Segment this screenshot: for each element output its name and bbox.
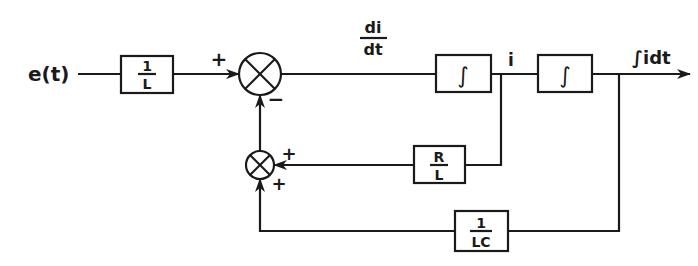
gain-block-1-over-L: 1 L bbox=[121, 56, 173, 93]
integral-icon: ∫ bbox=[457, 63, 468, 88]
main-sum-minus-sign: − bbox=[268, 87, 285, 111]
gain-R-over-L-denominator: L bbox=[435, 167, 444, 183]
gain-1-over-L-denominator: L bbox=[143, 76, 152, 92]
gain-R-over-L-numerator: R bbox=[434, 149, 445, 165]
gain-block-1-over-LC: 1 LC bbox=[455, 211, 508, 251]
integrator-block-1: ∫ bbox=[436, 55, 491, 92]
gain-block-R-over-L: R L bbox=[414, 146, 465, 183]
output-feedback-branch bbox=[508, 74, 619, 231]
integral-icon: ∫ bbox=[559, 63, 570, 88]
gain-1-over-LC-numerator: 1 bbox=[476, 215, 486, 231]
output-label: ∫idt bbox=[632, 47, 671, 69]
block-diagram: e(t) 1 L + − di dt ∫ i ∫ ∫idt bbox=[0, 0, 698, 266]
input-label: e(t) bbox=[28, 62, 69, 86]
feedback-sum-plus-sign-bottom: + bbox=[271, 173, 286, 194]
derivative-denominator: dt bbox=[363, 40, 382, 59]
feedback-summing-junction bbox=[246, 151, 274, 179]
gain-1-over-LC-denominator: LC bbox=[471, 234, 490, 250]
current-label: i bbox=[508, 50, 514, 70]
derivative-label: di dt bbox=[360, 18, 387, 59]
feedback-sum-plus-sign-top: + bbox=[281, 143, 296, 164]
main-sum-plus-sign: + bbox=[211, 47, 228, 71]
derivative-numerator: di bbox=[365, 18, 382, 37]
gain-1-over-L-numerator: 1 bbox=[142, 58, 152, 74]
line-1-over-LC-to-sum bbox=[260, 179, 455, 231]
integrator-block-2: ∫ bbox=[538, 55, 592, 92]
